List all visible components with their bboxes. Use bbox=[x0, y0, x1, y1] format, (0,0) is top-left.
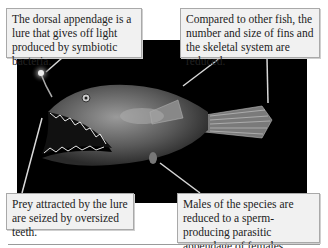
callout-fins: Compared to other fish, the number and s… bbox=[180, 8, 320, 58]
tail-fin bbox=[205, 106, 272, 138]
callout-teeth: Prey attracted by the lure are seized by… bbox=[6, 193, 134, 230]
callout-lure: The dorsal appendage is a lure that give… bbox=[6, 8, 142, 58]
callout-males: Males of the species are reduced to a sp… bbox=[177, 193, 320, 243]
bottom-divider bbox=[8, 244, 320, 245]
